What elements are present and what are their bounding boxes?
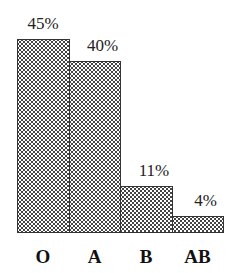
- bar-ab: [172, 216, 225, 233]
- category-label-o: O: [17, 246, 69, 268]
- category-label-a: A: [69, 246, 121, 268]
- bar-o: [17, 39, 70, 233]
- category-label-b: B: [120, 246, 172, 268]
- category-label-ab: AB: [172, 246, 224, 268]
- value-label-o: 45%: [17, 14, 69, 34]
- bar-a: [69, 61, 122, 233]
- value-label-ab: 4%: [180, 191, 232, 211]
- value-label-b: 11%: [128, 161, 180, 181]
- bar-b: [120, 186, 173, 233]
- value-label-a: 40%: [77, 36, 129, 56]
